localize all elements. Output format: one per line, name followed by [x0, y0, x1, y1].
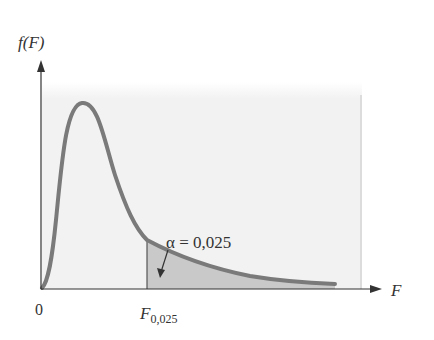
critical-value-subscript: 0,025	[150, 312, 177, 326]
critical-value-main: F	[139, 304, 151, 323]
x-axis-arrow-icon	[370, 285, 382, 293]
y-axis-arrow-icon	[37, 60, 45, 72]
x-axis-label: F	[390, 281, 402, 300]
f-distribution-chart: f(F) F 0 α = 0,025 F0,025	[0, 0, 434, 340]
plot-background-panel	[42, 82, 362, 289]
y-axis-label: f(F)	[18, 33, 45, 52]
origin-label: 0	[35, 301, 43, 318]
critical-value-label: F0,025	[139, 304, 177, 326]
alpha-annotation: α = 0,025	[166, 233, 231, 252]
